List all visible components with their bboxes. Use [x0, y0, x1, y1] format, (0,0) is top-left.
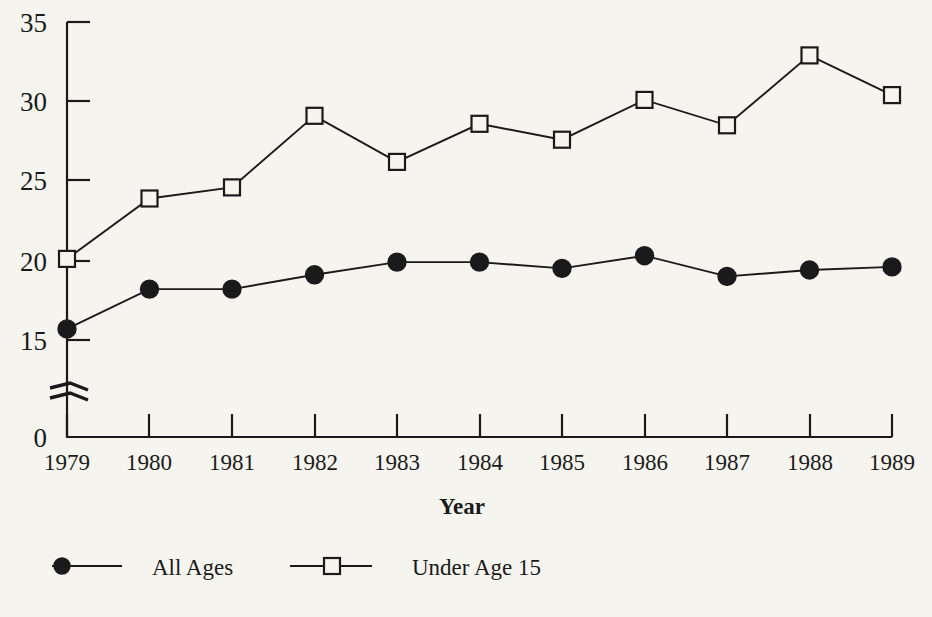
filled-circle-marker [223, 280, 241, 298]
filled-circle-marker [801, 261, 819, 279]
filled-circle-marker [388, 253, 406, 271]
filled-circle-marker [718, 267, 736, 285]
filled-circle-marker [58, 320, 76, 338]
legend-label-all-ages: All Ages [152, 555, 233, 580]
xtick-label-1984: 1984 [457, 450, 504, 475]
filled-circle-marker [883, 258, 901, 276]
series-layer [58, 47, 901, 338]
open-square-marker [389, 154, 405, 170]
open-square-marker [719, 117, 735, 133]
ytick-label-25: 25 [20, 166, 47, 196]
axis-frame [67, 22, 892, 437]
ytick-label-35: 35 [20, 8, 47, 38]
filled-circle-marker [141, 280, 159, 298]
open-square-marker [554, 132, 570, 148]
open-square-marker [59, 251, 75, 267]
xtick-label-1987: 1987 [704, 450, 750, 475]
filled-circle-marker [306, 266, 324, 284]
open-square-marker [307, 108, 323, 124]
xtick-label-1985: 1985 [539, 450, 585, 475]
ytick-label-20: 20 [20, 247, 47, 277]
chart-legend: All Ages Under Age 15 [52, 555, 541, 580]
filled-circle-marker [553, 259, 571, 277]
open-square-marker [884, 87, 900, 103]
xtick-label-1989: 1989 [869, 450, 915, 475]
xtick-label-1988: 1988 [787, 450, 833, 475]
legend-label-under-age-15: Under Age 15 [412, 555, 541, 580]
series-under-age-15 [59, 47, 900, 267]
xtick-label-1979: 1979 [44, 450, 90, 475]
open-square-marker [802, 47, 818, 63]
line-chart: 35 30 25 20 15 0 1979 1980 1981 1982 198… [0, 0, 932, 617]
xtick-label-1981: 1981 [209, 450, 255, 475]
open-square-marker [142, 191, 158, 207]
xtick-label-1986: 1986 [622, 450, 668, 475]
filled-circle-marker-icon [54, 558, 70, 574]
open-square-marker [224, 179, 240, 195]
axis-break-icon [50, 383, 88, 400]
open-square-marker-icon [324, 558, 340, 574]
x-axis-title: Year [439, 494, 485, 519]
xtick-label-1983: 1983 [374, 450, 420, 475]
series-path-1 [67, 55, 892, 259]
chart-canvas: 35 30 25 20 15 0 1979 1980 1981 1982 198… [0, 0, 932, 617]
filled-circle-marker [471, 253, 489, 271]
ytick-label-30: 30 [20, 87, 47, 117]
legend-entry-under-age-15[interactable]: Under Age 15 [290, 555, 541, 580]
ytick-label-15: 15 [20, 326, 47, 356]
xtick-label-1982: 1982 [292, 450, 338, 475]
open-square-marker [472, 116, 488, 132]
open-square-marker [637, 92, 653, 108]
legend-entry-all-ages[interactable]: All Ages [52, 555, 233, 580]
series-all-ages [58, 247, 901, 338]
ytick-label-0: 0 [34, 423, 48, 453]
xtick-label-1980: 1980 [126, 450, 172, 475]
filled-circle-marker [636, 247, 654, 265]
